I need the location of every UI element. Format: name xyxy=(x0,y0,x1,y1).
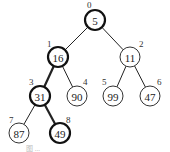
node-value: 87 xyxy=(14,128,26,140)
tree-node: 112 xyxy=(120,39,144,67)
node-value: 5 xyxy=(92,15,98,27)
tree-edge xyxy=(24,105,35,125)
tree-edge xyxy=(44,66,54,87)
node-index-label: 1 xyxy=(47,39,52,49)
tree-node: 877 xyxy=(9,115,29,143)
node-index-label: 8 xyxy=(66,115,71,125)
node-index-label: 5 xyxy=(102,77,107,87)
node-value: 99 xyxy=(108,91,120,103)
node-index-label: 7 xyxy=(9,115,14,125)
tree-node: 476 xyxy=(140,77,162,106)
node-index-label: 0 xyxy=(87,0,92,10)
node-index-label: 4 xyxy=(83,77,88,87)
tree-edges xyxy=(24,27,146,124)
node-value: 49 xyxy=(55,128,67,140)
tree-nodes: 50161112313904995476877498 xyxy=(9,0,162,143)
tree-edge xyxy=(117,66,126,87)
node-index-label: 3 xyxy=(29,77,34,87)
tree-node: 50 xyxy=(85,0,105,30)
node-value: 31 xyxy=(35,91,46,103)
node-value: 16 xyxy=(53,52,65,64)
tree-edge xyxy=(62,66,72,87)
tree-edge xyxy=(135,66,146,87)
node-index-label: 6 xyxy=(157,77,162,87)
tree-node: 161 xyxy=(47,39,68,67)
node-value: 90 xyxy=(72,91,84,103)
figure-caption: 图 ... xyxy=(26,143,40,152)
node-value: 11 xyxy=(125,52,136,64)
heap-tree-diagram: 50161112313904995476877498 xyxy=(0,0,170,152)
node-index-label: 2 xyxy=(139,39,144,49)
tree-edge xyxy=(102,27,123,49)
node-value: 47 xyxy=(145,91,157,103)
tree-edge xyxy=(65,27,88,50)
tree-edge xyxy=(45,105,55,124)
